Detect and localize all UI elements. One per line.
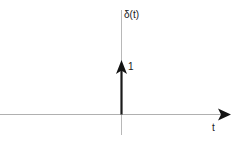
- impulse-amplitude-label: 1: [128, 62, 134, 72]
- impulse-function-figure: δ(t) 1 t: [0, 0, 241, 149]
- plot-canvas: [0, 0, 241, 149]
- y-axis-label: δ(t): [124, 10, 139, 20]
- x-axis-label: t: [212, 123, 215, 133]
